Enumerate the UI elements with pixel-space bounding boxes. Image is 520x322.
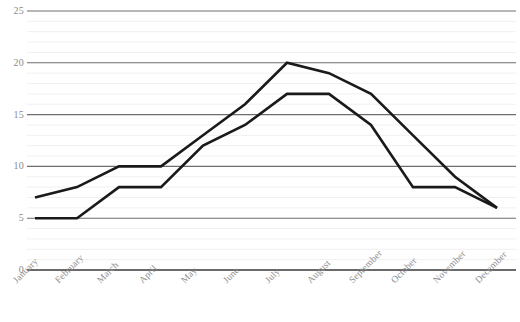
minor-gridlines (27, 21, 516, 259)
line-chart: 0510152025 JanuaryFebruaryMarchAprilMayJ… (0, 0, 520, 322)
y-tick-label: 5 (0, 213, 24, 223)
major-gridlines (27, 11, 516, 270)
y-tick-label: 10 (0, 161, 24, 171)
y-tick-label: 15 (0, 110, 24, 120)
y-tick-label: 25 (0, 6, 24, 16)
data-series-group (35, 63, 497, 218)
y-tick-label: 20 (0, 58, 24, 68)
